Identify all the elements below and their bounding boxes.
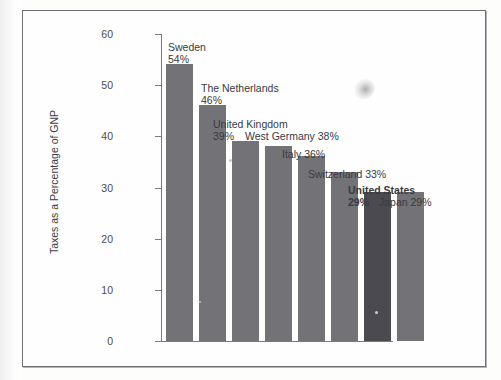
label-switzerland: Switzerland 33% — [308, 169, 386, 181]
label-netherlands-name: The Netherlands — [201, 83, 279, 95]
label-sweden-name: Sweden — [168, 42, 206, 54]
label-west-germany: West Germany 38% — [245, 131, 339, 143]
y-axis-title: Taxes as a Percentage of GNP — [48, 102, 60, 262]
y-tick-label-20: 20 — [73, 234, 113, 245]
label-united-kingdom-name: United Kingdom — [213, 119, 288, 131]
bar-sweden — [166, 64, 193, 341]
y-tick-label-60: 60 — [73, 29, 113, 40]
y-tick-label-10: 10 — [73, 285, 113, 296]
label-sweden: Sweden 54% — [168, 42, 206, 65]
y-axis-line — [161, 34, 162, 342]
y-tick-label-40: 40 — [73, 131, 113, 142]
bar-japan — [397, 192, 424, 341]
label-italy: Italy 36% — [282, 149, 325, 161]
label-united-states-value: 29% — [348, 197, 369, 209]
label-netherlands-value: 46% — [201, 95, 279, 107]
bar-west-germany — [265, 146, 292, 341]
bar-united-kingdom — [232, 141, 259, 341]
bar-united-states — [364, 192, 391, 341]
scan-smudge — [350, 75, 379, 103]
x-axis-line — [161, 341, 393, 342]
label-sweden-value: 54% — [168, 54, 206, 66]
y-tick-label-30: 30 — [73, 183, 113, 194]
scan-page-edge — [0, 0, 22, 380]
y-tick-50 — [155, 85, 161, 86]
label-japan: Japan 29% — [379, 197, 432, 209]
y-tick-30 — [155, 188, 161, 189]
y-tick-10 — [155, 290, 161, 291]
y-tick-40 — [155, 136, 161, 137]
label-united-states-name: United States — [348, 185, 415, 197]
y-tick-20 — [155, 239, 161, 240]
y-tick-label-50: 50 — [73, 80, 113, 91]
y-tick-0 — [155, 341, 161, 342]
y-tick-60 — [155, 34, 161, 35]
label-netherlands: The Netherlands 46% — [201, 83, 279, 106]
chart-screenshot: 60 50 40 30 20 10 0 Taxes as a Percentag… — [0, 0, 501, 380]
plot-area: 60 50 40 30 20 10 0 Taxes as a Percentag… — [23, 11, 487, 368]
y-tick-label-0: 0 — [73, 336, 113, 347]
bar-italy — [298, 156, 325, 341]
chart-frame: 60 50 40 30 20 10 0 Taxes as a Percentag… — [22, 10, 486, 367]
